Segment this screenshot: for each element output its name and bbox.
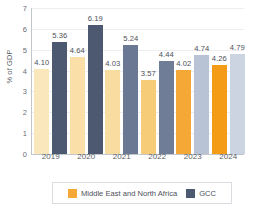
- bar-group: 4.646.19: [70, 8, 103, 154]
- bar-value-label: 3.57: [141, 69, 156, 78]
- x-axis-tick-label: 2023: [173, 152, 213, 161]
- legend: Middle East and North AfricaGCC: [52, 182, 232, 204]
- bar[interactable]: 6.19: [88, 25, 103, 154]
- bar-value-label: 4.64: [70, 46, 85, 55]
- bar[interactable]: 4.02: [176, 70, 191, 154]
- legend-item[interactable]: Middle East and North Africa: [68, 189, 177, 198]
- bar-value-label: 4.79: [230, 43, 245, 52]
- bar-value-label: 4.74: [194, 44, 209, 53]
- y-axis-tick-label: 7: [23, 4, 27, 13]
- bar-value-label: 4.02: [176, 59, 191, 68]
- y-axis-tick-label: 3: [23, 87, 27, 96]
- bar[interactable]: 4.03: [105, 70, 120, 154]
- y-axis-tick-label: 2: [23, 108, 27, 117]
- bar[interactable]: 5.36: [52, 42, 67, 154]
- bar[interactable]: 4.26: [212, 65, 227, 154]
- y-axis-tick-label: 6: [23, 24, 27, 33]
- legend-label: Middle East and North Africa: [81, 189, 177, 198]
- legend-swatch: [68, 189, 77, 198]
- y-axis-tick-label: 5: [23, 45, 27, 54]
- x-axis-tick-label: 2020: [66, 152, 106, 161]
- bar[interactable]: 4.74: [194, 55, 209, 154]
- gdp-bar-chart: % of GDP 76543210 4.105.364.646.194.035.…: [0, 0, 253, 210]
- x-axis-tick-label: 2021: [102, 152, 142, 161]
- bar-value-label: 4.10: [34, 58, 49, 67]
- y-axis-title: % of GDP: [5, 37, 14, 97]
- y-axis-tick-label: 0: [23, 150, 27, 159]
- bar[interactable]: 3.57: [141, 80, 156, 154]
- bar[interactable]: 4.79: [230, 54, 245, 154]
- bar[interactable]: 5.24: [123, 45, 138, 154]
- bar-group: 4.024.74: [176, 8, 209, 154]
- legend-swatch: [186, 189, 195, 198]
- bar-group: 3.574.44: [141, 8, 174, 154]
- y-axis-tick-label: 4: [23, 66, 27, 75]
- bar-value-label: 6.19: [88, 14, 103, 23]
- legend-item[interactable]: GCC: [186, 189, 216, 198]
- bar[interactable]: 4.44: [159, 61, 174, 154]
- x-axis-tick-label: 2022: [137, 152, 177, 161]
- bar[interactable]: 4.64: [70, 57, 85, 154]
- bar[interactable]: 4.10: [34, 69, 49, 155]
- bar-group: 4.105.36: [34, 8, 67, 154]
- bar-value-label: 4.26: [212, 54, 227, 63]
- x-axis-tick-label: 2019: [31, 152, 71, 161]
- plot-area: 76543210 4.105.364.646.194.035.243.574.4…: [31, 8, 244, 155]
- bar-value-label: 4.03: [105, 59, 120, 68]
- bar-group: 4.264.79: [212, 8, 245, 154]
- y-axis-tick-label: 1: [23, 129, 27, 138]
- legend-label: GCC: [199, 189, 216, 198]
- bar-value-label: 5.24: [123, 34, 138, 43]
- x-axis-tick-label: 2024: [208, 152, 248, 161]
- bar-value-label: 4.44: [159, 50, 174, 59]
- bar-group: 4.035.24: [105, 8, 138, 154]
- bar-value-label: 5.36: [52, 31, 67, 40]
